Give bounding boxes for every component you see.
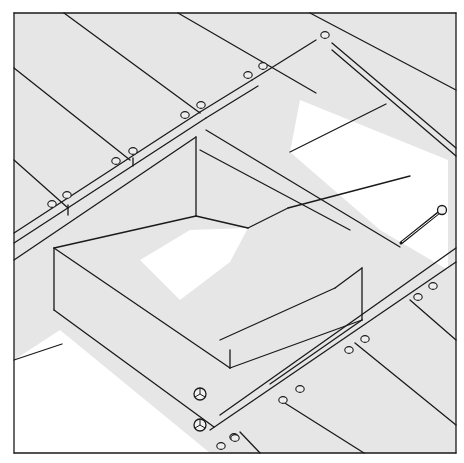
screw-hole-icon bbox=[112, 158, 120, 165]
screw-hole-icon bbox=[181, 112, 189, 119]
screw-hole-icon bbox=[197, 102, 205, 109]
screw-hole-icon bbox=[48, 201, 56, 208]
screw-hole-icon bbox=[231, 435, 239, 442]
screw-hole-icon bbox=[244, 72, 252, 79]
bolt-head-icon bbox=[194, 388, 206, 400]
screw-hole-icon bbox=[63, 192, 71, 199]
screw-hole-icon bbox=[321, 32, 329, 39]
screw-hole-icon bbox=[279, 397, 287, 404]
screw-hole-icon bbox=[296, 386, 304, 393]
screw-hole-icon bbox=[361, 336, 369, 343]
screw-hole-icon bbox=[259, 63, 267, 70]
screw-hole-icon bbox=[345, 347, 353, 354]
screw-hole-icon bbox=[217, 443, 225, 450]
screw-hole-icon bbox=[429, 283, 437, 290]
screw-hole-icon bbox=[129, 148, 137, 155]
deck-framing-drawing bbox=[0, 0, 464, 463]
screw-hole-icon bbox=[414, 294, 422, 301]
bolt-head-icon bbox=[194, 419, 206, 431]
framing-illustration bbox=[0, 0, 464, 463]
